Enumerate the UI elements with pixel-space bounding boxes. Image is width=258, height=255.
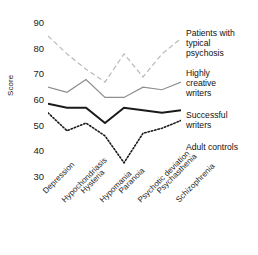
- series-line-1: [48, 80, 181, 98]
- y-axis-tick-50: 50: [22, 121, 44, 131]
- chart-figure: Score 90807060504030 DepressionHypochond…: [0, 0, 258, 255]
- y-axis-tick-90: 90: [22, 18, 44, 28]
- legend-entry-line: Successful: [186, 110, 258, 120]
- series-lines: [48, 18, 181, 182]
- plot-area: [48, 18, 181, 182]
- legend-entry-line: creative: [186, 78, 258, 88]
- series-line-3: [48, 113, 181, 163]
- y-axis-tick-60: 60: [22, 95, 44, 105]
- y-axis-tick-80: 80: [22, 44, 44, 54]
- legend-entry-0: Patients withtypicalpsychosis: [186, 28, 258, 59]
- legend-entry-line: Highly: [186, 68, 258, 78]
- legend-entry-line: Adult controls: [186, 142, 258, 152]
- legend-entry-line: writers: [186, 120, 258, 130]
- legend-entry-line: Patients with: [186, 28, 258, 38]
- legend-entry-3: Adult controls: [186, 142, 258, 152]
- y-axis-title: Score: [6, 75, 15, 96]
- legend-entry-line: psychosis: [186, 48, 258, 58]
- legend-entry-line: typical: [186, 38, 258, 48]
- y-axis-ticks: 90807060504030: [22, 0, 44, 255]
- series-line-2: [48, 104, 181, 123]
- y-axis-tick-30: 30: [22, 172, 44, 182]
- series-line-0: [48, 36, 181, 82]
- legend-entry-2: Successfulwriters: [186, 110, 258, 130]
- legend-entry-line: writers: [186, 88, 258, 98]
- legend-entry-1: Highlycreativewriters: [186, 68, 258, 99]
- y-axis-tick-40: 40: [22, 146, 44, 156]
- y-axis-tick-70: 70: [22, 69, 44, 79]
